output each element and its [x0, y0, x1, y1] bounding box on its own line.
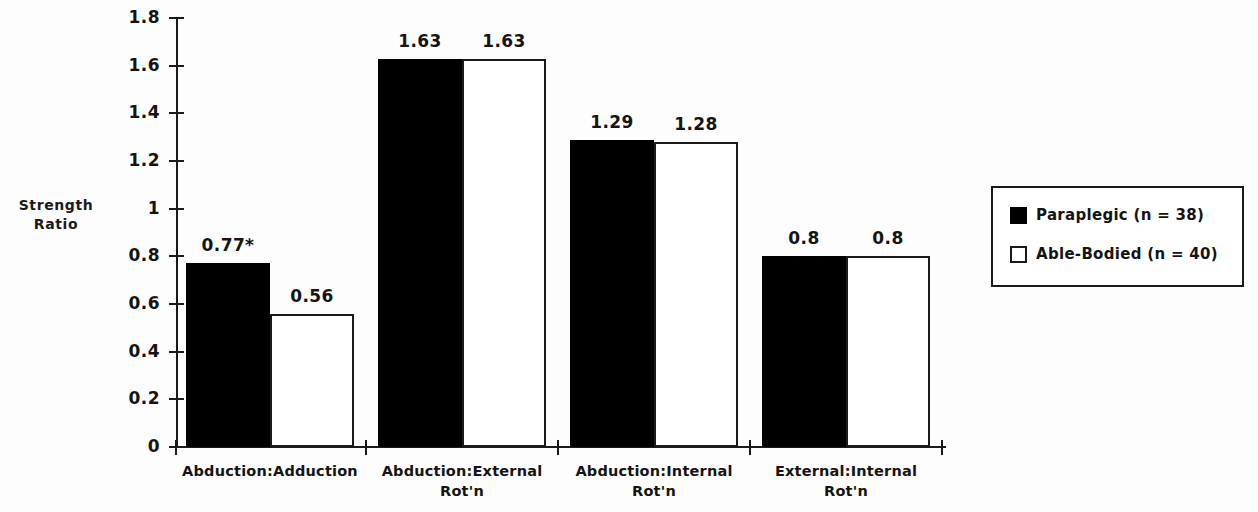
- bar: [762, 256, 846, 447]
- y-axis-tick: [169, 351, 184, 353]
- x-axis-tick: [175, 440, 177, 455]
- y-axis-title-line2: Ratio: [6, 215, 106, 234]
- legend-entry-paraplegic: Paraplegic (n = 38): [1010, 206, 1204, 224]
- legend: Paraplegic (n = 38) Able-Bodied (n = 40): [991, 186, 1244, 287]
- y-axis-tick: [169, 255, 184, 257]
- y-axis-tick: [169, 398, 184, 400]
- x-axis-tick: [941, 440, 943, 455]
- y-axis-tick-label: 1.8: [92, 7, 160, 27]
- legend-label-able-bodied: Able-Bodied (n = 40): [1036, 245, 1218, 263]
- y-axis-title-line1: Strength: [6, 196, 106, 215]
- y-axis-tick: [169, 208, 184, 210]
- x-axis-tick: [365, 440, 367, 455]
- bar: [462, 59, 546, 447]
- legend-label-paraplegic: Paraplegic (n = 38): [1036, 206, 1204, 224]
- y-axis-tick: [169, 65, 184, 67]
- y-axis-tick: [169, 112, 184, 114]
- bar-value-label: 0.8: [834, 228, 942, 248]
- bar-value-label: 0.56: [258, 286, 366, 306]
- legend-swatch-filled-square-icon: [1010, 207, 1027, 224]
- y-axis-tick-label: 0.6: [92, 293, 160, 313]
- bar-value-label: 1.63: [450, 31, 558, 51]
- y-axis-tick-label: 0.2: [92, 388, 160, 408]
- y-axis-tick-label: 1.2: [92, 150, 160, 170]
- bar: [270, 314, 354, 447]
- y-axis-tick-label: 1: [92, 198, 160, 218]
- x-axis-tick: [557, 440, 559, 455]
- bar: [378, 59, 462, 447]
- y-axis-tick: [169, 160, 184, 162]
- legend-entry-able-bodied: Able-Bodied (n = 40): [1010, 245, 1218, 263]
- y-axis-tick-label: 1.6: [92, 55, 160, 75]
- y-axis-title: Strength Ratio: [6, 196, 106, 234]
- y-axis-tick-label: 0: [92, 436, 160, 456]
- bar-chart: Strength Ratio 00.20.40.60.811.21.41.61.…: [0, 0, 1258, 512]
- y-axis-tick-label: 0.4: [92, 341, 160, 361]
- x-axis-category-label-line: External:Internal: [732, 461, 960, 481]
- y-axis-tick: [169, 303, 184, 305]
- y-axis-line: [176, 18, 178, 448]
- bar: [846, 256, 930, 447]
- x-axis-category-label-line: Rot'n: [732, 481, 960, 501]
- x-axis-tick: [749, 440, 751, 455]
- bar: [570, 140, 654, 447]
- x-axis-category-label: External:InternalRot'n: [732, 461, 960, 501]
- bar-value-label: 1.28: [642, 114, 750, 134]
- bar-value-label: 0.77*: [174, 235, 282, 255]
- y-axis-tick-label: 1.4: [92, 102, 160, 122]
- bar: [654, 142, 738, 447]
- y-axis-tick-label: 0.8: [92, 245, 160, 265]
- legend-swatch-outlined-square-icon: [1010, 246, 1027, 263]
- y-axis-tick: [169, 17, 184, 19]
